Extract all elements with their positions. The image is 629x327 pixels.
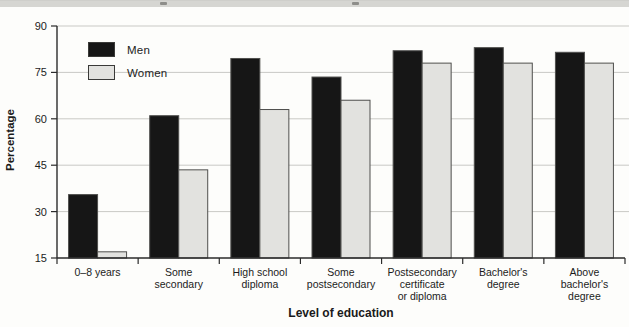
y-tick-label: 60 <box>35 113 47 125</box>
legend-label-men: Men <box>127 44 150 56</box>
x-category-label: Bachelor'sdegree <box>479 266 528 290</box>
legend: Men Women <box>88 42 167 80</box>
bar-men-3 <box>312 77 341 258</box>
bar-women-4 <box>422 63 451 258</box>
x-category-label: Somesecondary <box>154 266 203 290</box>
women-series-swatch <box>88 65 115 80</box>
men-series-swatch <box>88 42 115 57</box>
bar-men-5 <box>474 48 503 258</box>
bar-men-6 <box>555 52 584 258</box>
bar-women-5 <box>503 63 532 258</box>
x-category-label: Postsecondarycertificateor diploma <box>387 266 457 302</box>
y-tick-label: 15 <box>35 252 47 264</box>
bar-women-2 <box>260 110 289 258</box>
x-axis-title: Level of education <box>57 306 625 320</box>
legend-item-women: Women <box>88 65 167 80</box>
bar-men-1 <box>150 116 179 258</box>
legend-item-men: Men <box>88 42 167 57</box>
x-category-label: 0–8 years <box>75 266 121 278</box>
bar-women-0 <box>98 252 127 258</box>
y-tick-label: 30 <box>35 206 47 218</box>
bar-women-3 <box>341 100 370 258</box>
y-tick-label: 75 <box>35 66 47 78</box>
y-tick-label: 90 <box>35 20 47 32</box>
legend-label-women: Women <box>127 67 167 79</box>
bar-men-2 <box>231 58 260 258</box>
x-category-label: Abovebachelor'sdegree <box>561 266 609 302</box>
bar-women-1 <box>179 170 208 258</box>
x-category-label: Somepostsecondary <box>307 266 376 290</box>
bar-women-6 <box>584 63 613 258</box>
x-category-label: High schooldiploma <box>232 266 287 290</box>
y-axis-title: Percentage <box>4 75 16 205</box>
y-tick-label: 45 <box>35 159 47 171</box>
bar-men-4 <box>393 51 422 258</box>
bar-men-0 <box>69 195 98 258</box>
scanned-figure: 1530456075900–8 yearsSomesecondaryHigh s… <box>0 0 629 327</box>
